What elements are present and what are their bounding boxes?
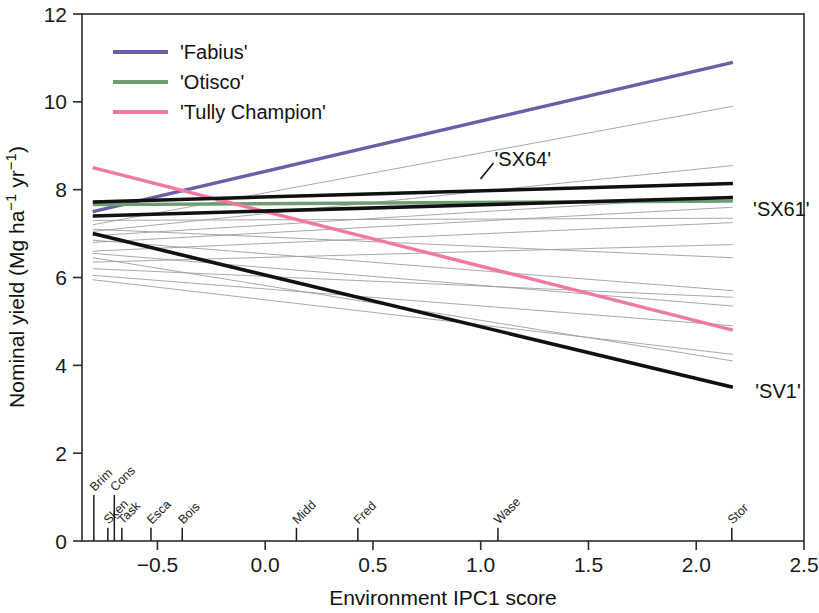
nominal-yield-chart: 024681012 −0.50.00.51.01.52.02.5 BrimSke… bbox=[0, 0, 819, 613]
annotation-label-sx64: 'SX64' bbox=[494, 148, 551, 170]
annotation-label-sx61: 'SX61' bbox=[753, 198, 810, 220]
x-tick-label: 0.5 bbox=[358, 553, 387, 576]
x-tick-label: 2.5 bbox=[789, 553, 818, 576]
y-axis-title-suffix: ) bbox=[5, 146, 28, 153]
x-axis: −0.50.00.51.01.52.02.5 bbox=[137, 541, 819, 576]
y-axis-title-exponent-2: −1 bbox=[2, 153, 19, 170]
y-axis-title-prefix: Nominal yield (Mg ha bbox=[5, 210, 28, 408]
legend-label-fabius: 'Fabius' bbox=[180, 41, 248, 63]
y-tick-label: 4 bbox=[55, 354, 67, 377]
y-tick-label: 12 bbox=[44, 3, 67, 26]
y-tick-label: 6 bbox=[55, 266, 67, 289]
legend-label-otisco: 'Otisco' bbox=[180, 71, 244, 93]
y-axis: 024681012 bbox=[44, 3, 82, 553]
legend-label-tullychampion: 'Tully Champion' bbox=[180, 101, 326, 123]
x-tick-label: 1.0 bbox=[466, 553, 495, 576]
x-tick-label: −0.5 bbox=[137, 553, 178, 576]
x-tick-label: 1.5 bbox=[574, 553, 603, 576]
y-tick-label: 2 bbox=[55, 442, 67, 465]
x-axis-title: Environment IPC1 score bbox=[329, 586, 557, 609]
plot-frame bbox=[82, 14, 804, 541]
x-tick-label: 0.0 bbox=[251, 553, 280, 576]
y-tick-label: 10 bbox=[44, 90, 67, 113]
x-tick-label: 2.0 bbox=[682, 553, 711, 576]
plot-border bbox=[82, 14, 804, 541]
y-tick-label: 8 bbox=[55, 178, 67, 201]
y-tick-label: 0 bbox=[55, 530, 67, 553]
figure-container: 024681012 −0.50.00.51.01.52.02.5 BrimSke… bbox=[0, 0, 819, 613]
annotation-label-sv1: 'SV1' bbox=[755, 380, 800, 402]
y-axis-title-exponent-1: −1 bbox=[2, 194, 19, 211]
y-axis-title-middle: yr bbox=[5, 170, 28, 193]
y-axis-title: Nominal yield (Mg ha−1 yr−1) bbox=[2, 146, 28, 408]
